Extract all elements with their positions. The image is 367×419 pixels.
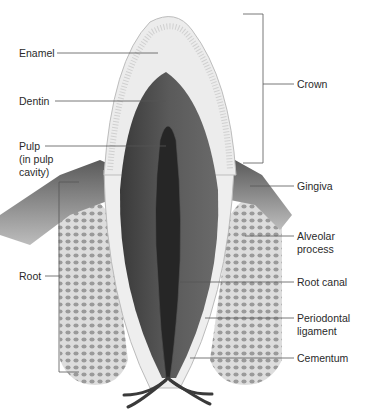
label-cementum: Cementum [297,352,348,365]
label-alveolar-process: Alveolar process [297,230,335,256]
label-periodontal-line-1: Periodontal [297,312,350,325]
label-periodontal-line-2: ligament [297,325,350,338]
label-enamel: Enamel [19,47,55,60]
label-alveolar-line-2: process [297,243,335,256]
label-pulp-line-3: cavity) [19,166,53,179]
label-root: Root [19,270,41,283]
label-pulp-line-2: (in pulp [19,153,53,166]
label-alveolar-line-1: Alveolar [297,230,335,243]
label-dentin: Dentin [19,95,49,108]
label-crown: Crown [297,78,327,91]
label-pulp: Pulp (in pulp cavity) [19,140,53,179]
label-pulp-line-1: Pulp [19,140,53,153]
label-root-canal: Root canal [297,276,347,289]
label-gingiva: Gingiva [297,180,333,193]
label-periodontal-ligament: Periodontal ligament [297,312,350,338]
